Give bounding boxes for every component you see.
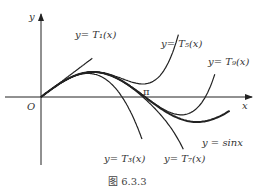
label-sin: y = sinx — [201, 137, 243, 148]
label-T9: y= T₉(x) — [207, 56, 249, 67]
label-T7: y= T₇(x) — [163, 153, 205, 164]
origin-label: O — [27, 101, 35, 112]
x-axis-label: x — [242, 100, 248, 111]
label-T1: y= T₁(x) — [74, 29, 116, 40]
y-axis-label: y — [28, 11, 35, 22]
curve-T5 — [41, 35, 178, 97]
label-T3: y= T₃(x) — [103, 153, 145, 164]
label-T5: y= T₅(x) — [160, 38, 202, 49]
taylor-diagram: y x O π y= T₁(x) y= T₃(x) y= T₅(x) y= T₇… — [0, 0, 262, 194]
curve-T7 — [41, 72, 183, 149]
figure-caption: 图 6.3.3 — [108, 176, 147, 187]
